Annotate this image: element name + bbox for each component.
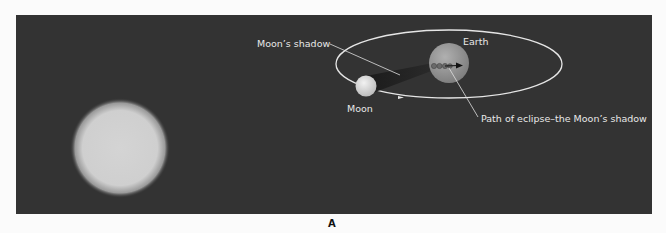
earth-label: Earth xyxy=(463,36,488,47)
eclipse-diagram: Moon’s shadow Earth Moon Path of eclipse… xyxy=(0,0,666,233)
panel-label: A xyxy=(328,218,336,229)
moon-label: Moon xyxy=(347,103,373,114)
earth xyxy=(429,43,469,83)
moon-shadow-label: Moon’s shadow xyxy=(257,38,330,49)
sun xyxy=(70,98,170,198)
moon-shadow-cone xyxy=(366,63,434,94)
orbit-direction-arrow-icon xyxy=(398,96,404,99)
eclipse-path-label: Path of eclipse–the Moon’s shadow xyxy=(481,113,647,124)
moon xyxy=(356,76,377,97)
moon-shadow-leader-line xyxy=(330,44,400,75)
